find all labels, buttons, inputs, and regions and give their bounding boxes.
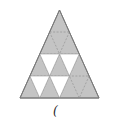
figure-caption: (: [53, 104, 58, 118]
sierpinski-triangle-figure: [0, 0, 119, 121]
